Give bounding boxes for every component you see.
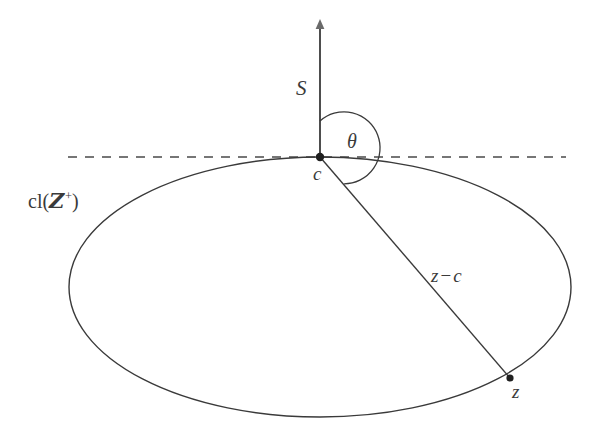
axis-arrowhead-icon [316,19,325,29]
region-label-superscript: + [65,189,72,203]
region-label-suffix: ) [72,190,79,212]
diagram-svg [0,0,600,437]
geometric-diagram: S θ c cl(Z+) z−c z [0,0,600,437]
region-label-symbol: Z [49,188,65,213]
center-dot [316,153,324,161]
point-label-c: c [313,164,321,183]
point-label-z: z [512,382,519,401]
vector-label-z-minus-c: z−c [431,266,462,285]
ellipse-boundary [69,157,571,417]
axis-label-s: S [296,78,307,99]
angle-label-theta: θ [347,131,357,151]
radius-segment [320,157,510,378]
vector-label-second-term: c [453,265,461,286]
minus-sign-icon: − [438,265,453,286]
region-label-prefix: cl( [28,190,49,212]
region-label-cl-z-plus: cl(Z+) [28,190,79,211]
